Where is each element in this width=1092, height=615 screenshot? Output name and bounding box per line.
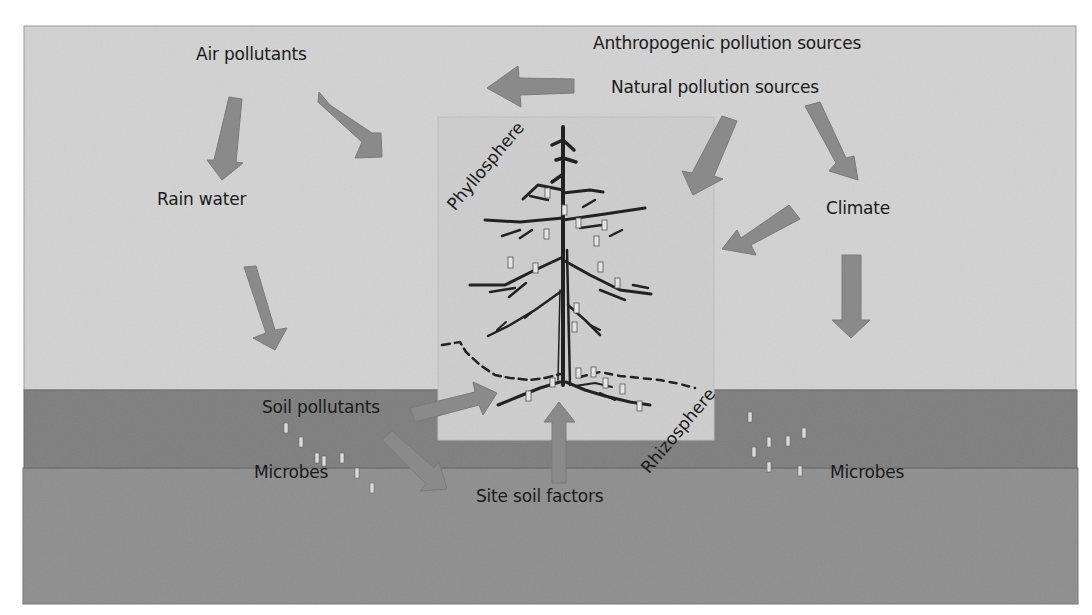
label-climate: Climate: [826, 198, 890, 218]
label-rain-water: Rain water: [157, 189, 246, 209]
label-site-soil-factors: Site soil factors: [476, 486, 603, 506]
label-soil-pollutants: Soil pollutants: [262, 397, 380, 417]
diagram-graphics: [0, 0, 1092, 615]
label-air-pollutants: Air pollutants: [196, 44, 307, 64]
diagram-canvas: Air pollutants Anthropogenic pollution s…: [0, 0, 1092, 615]
label-anthropogenic-pollution-sources: Anthropogenic pollution sources: [593, 33, 861, 53]
label-microbes-right: Microbes: [830, 462, 904, 482]
label-natural-pollution-sources: Natural pollution sources: [611, 77, 819, 97]
label-microbes-left: Microbes: [254, 462, 328, 482]
